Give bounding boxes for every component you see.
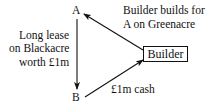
builder-node: Builder bbox=[143, 46, 188, 62]
builds-label-line2: A on Greenacre bbox=[123, 18, 195, 31]
builds-label-line1: Builder builds for bbox=[123, 4, 205, 17]
node-a: A bbox=[72, 4, 80, 17]
cash-label: £1m cash bbox=[111, 83, 155, 96]
lease-label-line1: Long lease bbox=[19, 29, 69, 42]
node-b: B bbox=[72, 91, 80, 104]
lease-label-line3: worth £1m bbox=[19, 56, 69, 69]
lease-label-line2: on Blackacre bbox=[9, 42, 69, 55]
